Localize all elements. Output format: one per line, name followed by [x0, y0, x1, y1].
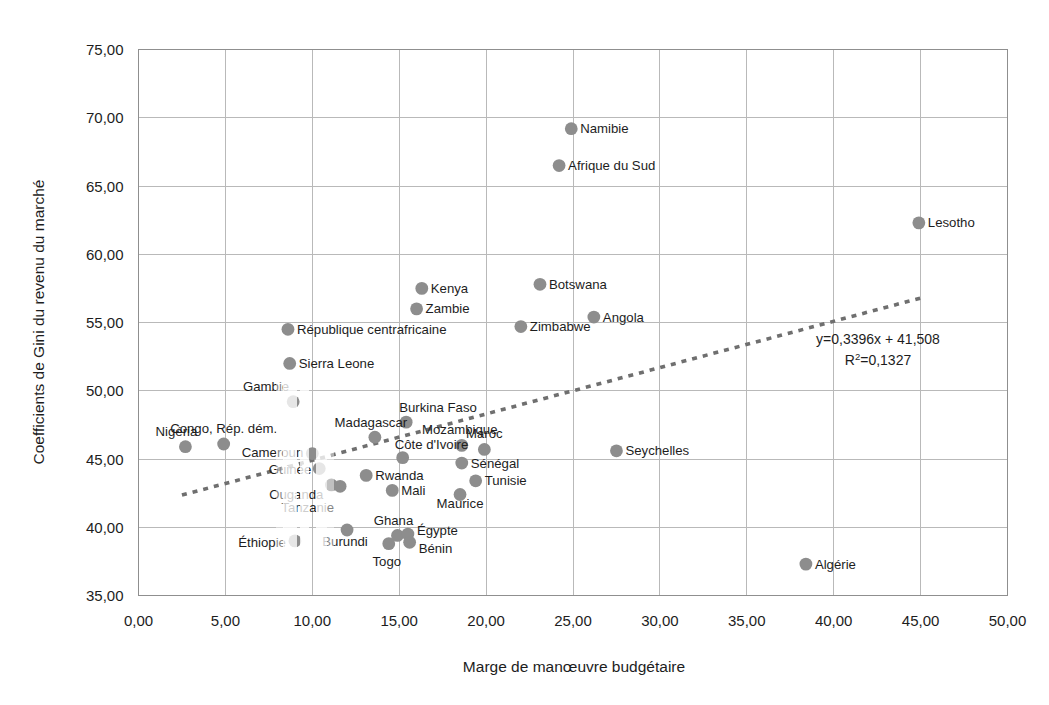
y-tick-label: 40,00: [86, 519, 124, 536]
data-point: [410, 302, 423, 315]
data-point-label: Mali: [401, 483, 425, 498]
data-point: [610, 444, 623, 457]
x-tick-label: 5,00: [211, 612, 240, 629]
x-tick-label: 45,00: [902, 612, 940, 629]
trendline-r-squared: R2=0,1327: [845, 351, 912, 368]
y-axis-title: Coefficients de Gini du revenu du marché: [30, 180, 47, 465]
data-point-label: Seychelles: [625, 443, 689, 458]
scan-streak-band: [300, 380, 309, 580]
data-point: [455, 457, 468, 470]
x-axis-title: Marge de manœuvre budgétaire: [463, 658, 685, 675]
x-tick-label: 0,00: [124, 612, 153, 629]
data-point: [534, 278, 547, 291]
y-axis-tick-labels: 35,0040,0045,0050,0055,0060,0065,0070,00…: [86, 41, 124, 604]
data-point: [565, 122, 578, 135]
data-point-label: Côte d'Ivoire: [395, 437, 469, 452]
x-tick-label: 50,00: [989, 612, 1027, 629]
data-point: [360, 469, 373, 482]
chart-canvas: 35,0040,0045,0050,0055,0060,0065,0070,00…: [0, 0, 1049, 705]
x-tick-label: 10,00: [294, 612, 332, 629]
data-point-label: Bénin: [419, 541, 453, 556]
data-point-label: Congo, Rép. dém.: [170, 421, 277, 436]
data-point: [396, 451, 409, 464]
data-point-label: Sénégal: [471, 456, 519, 471]
scan-artifact: [276, 370, 334, 585]
data-point: [283, 357, 296, 370]
scan-streak-band: [327, 398, 334, 558]
data-point: [382, 537, 395, 550]
data-point-label: Zimbabwe: [530, 319, 591, 334]
data-point-label: Burkina Faso: [399, 400, 477, 415]
y-tick-label: 75,00: [86, 41, 124, 58]
data-point-label: Namibie: [580, 121, 628, 136]
data-point-label: Madagascar: [335, 415, 408, 430]
x-tick-label: 35,00: [728, 612, 766, 629]
data-point: [386, 484, 399, 497]
data-point-label: Togo: [372, 554, 401, 569]
scan-streak-band: [283, 370, 297, 585]
data-point-label: Maurice: [437, 496, 484, 511]
data-point: [478, 443, 491, 456]
data-point-label: Sierra Leone: [299, 356, 375, 371]
data-point: [799, 558, 812, 571]
data-point-label: Tunisie: [485, 473, 527, 488]
data-point-label: Rwanda: [375, 468, 424, 483]
x-axis-tick-labels: 0,005,0010,0015,0020,0025,0030,0035,0040…: [124, 612, 1026, 629]
y-tick-label: 45,00: [86, 451, 124, 468]
scan-streak-band: [276, 376, 284, 576]
x-tick-label: 15,00: [380, 612, 418, 629]
scatter-chart: 35,0040,0045,0050,0055,0060,0065,0070,00…: [0, 0, 1049, 705]
data-point-label: Afrique du Sud: [568, 158, 655, 173]
trendline-equation: y=0,3396x + 41,508: [816, 331, 940, 347]
data-point: [282, 323, 295, 336]
data-point-label: Botswana: [549, 277, 608, 292]
data-point: [553, 159, 566, 172]
y-tick-label: 55,00: [86, 314, 124, 331]
data-point-label: Maroc: [466, 426, 503, 441]
y-tick-label: 35,00: [86, 587, 124, 604]
data-point: [179, 440, 192, 453]
y-tick-label: 50,00: [86, 382, 124, 399]
x-tick-label: 20,00: [467, 612, 505, 629]
data-point-label: Kenya: [431, 281, 469, 296]
data-point: [415, 282, 428, 295]
data-point: [912, 216, 925, 229]
data-point: [403, 536, 416, 549]
data-point-label: République centrafricaine: [297, 322, 447, 337]
x-tick-label: 40,00: [815, 612, 853, 629]
x-tick-label: 30,00: [641, 612, 679, 629]
data-point-label: Lesotho: [928, 215, 975, 230]
data-point: [368, 431, 381, 444]
data-point-label: Égypte: [417, 523, 458, 538]
data-point-label: Angola: [603, 310, 645, 325]
scan-streak-band: [316, 392, 327, 567]
data-point: [334, 480, 347, 493]
data-point: [469, 474, 482, 487]
y-tick-label: 65,00: [86, 178, 124, 195]
data-point-label: Zambie: [426, 301, 470, 316]
data-point: [217, 438, 230, 451]
data-point: [514, 320, 527, 333]
data-point-label: Algérie: [815, 557, 856, 572]
data-point-label: Ghana: [374, 513, 414, 528]
y-tick-label: 70,00: [86, 109, 124, 126]
y-tick-label: 60,00: [86, 246, 124, 263]
x-tick-label: 25,00: [554, 612, 592, 629]
